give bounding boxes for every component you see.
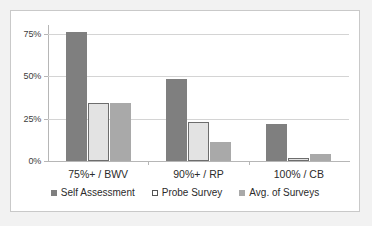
legend-item[interactable]: Probe Survey [152, 187, 223, 198]
value-axis-tick-mark [44, 161, 48, 162]
category-separator [148, 161, 149, 165]
chart-figure: 0%25%50%75% 75%+ / BWV90%+ / RP100% / CB… [0, 0, 372, 226]
category-axis-tick-label: 75%+ / BWV [68, 168, 128, 180]
legend-item[interactable]: Avg. of Surveys [239, 187, 319, 198]
bar [66, 32, 87, 161]
bar [288, 158, 309, 161]
chart-frame: 0%25%50%75% 75%+ / BWV90%+ / RP100% / CB… [10, 10, 360, 212]
bar [166, 79, 187, 161]
chart-legend: Self AssessmentProbe SurveyAvg. of Surve… [11, 187, 359, 198]
category-axis-tick-label: 100% / CB [274, 168, 324, 180]
legend-label: Probe Survey [162, 187, 223, 198]
bar-group [66, 25, 131, 161]
bar [88, 103, 109, 161]
bar [110, 103, 131, 161]
bar [210, 142, 231, 161]
category-separator [249, 161, 250, 165]
bar [188, 122, 209, 161]
bar-group [266, 25, 331, 161]
plot-area [48, 25, 349, 161]
legend-label: Avg. of Surveys [249, 187, 319, 198]
bar [266, 124, 287, 161]
category-axis-line [48, 161, 350, 162]
bar-group [166, 25, 231, 161]
legend-swatch-icon [152, 190, 158, 196]
legend-swatch-icon [239, 190, 245, 196]
category-axis-tick-label: 90%+ / RP [173, 168, 224, 180]
legend-item[interactable]: Self Assessment [51, 187, 135, 198]
legend-swatch-icon [51, 190, 57, 196]
bar [310, 154, 331, 161]
legend-label: Self Assessment [61, 187, 135, 198]
